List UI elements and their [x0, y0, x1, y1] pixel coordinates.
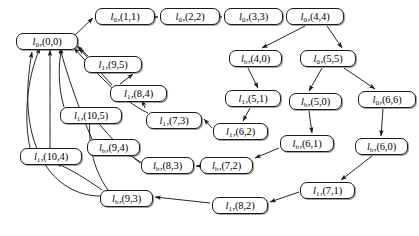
- node-coordinate: (0,0): [42, 36, 62, 47]
- graph-node-61[interactable]: lb,(6,1): [280, 135, 334, 152]
- graph-node-00[interactable]: l0,(0,0): [16, 33, 78, 50]
- graph-node-51[interactable]: l1,(5,1): [225, 90, 281, 107]
- edge-n50-to-n61: [309, 111, 312, 133]
- node-coordinate: (8,4): [133, 88, 153, 99]
- graph-node-33[interactable]: l0,(3,3): [224, 8, 283, 25]
- edge-n55-to-n50: [309, 68, 322, 91]
- edge-n40-to-n51: [248, 68, 258, 88]
- edge-n105-to-n00: [59, 48, 64, 107]
- graph-node-11[interactable]: l0,(1,1): [95, 8, 155, 25]
- node-coordinate: (1,1): [120, 11, 140, 22]
- edge-n82-to-n93: [155, 197, 210, 203]
- graph-node-94[interactable]: lb,(9,4): [87, 139, 140, 156]
- graph-node-93[interactable]: lb,(9,3): [100, 190, 153, 207]
- graph-node-84[interactable]: l1,(8,4): [110, 85, 167, 102]
- edge-n60-to-n71: [341, 156, 372, 180]
- graph-node-71[interactable]: l1,(7,1): [300, 182, 355, 199]
- node-coordinate: (6,2): [235, 126, 255, 137]
- graph-node-50[interactable]: lb,(5,0): [289, 93, 342, 110]
- graph-node-55[interactable]: l0,(5,5): [300, 50, 356, 67]
- node-coordinate: (9,4): [108, 142, 128, 153]
- node-coordinate: (4,0): [250, 53, 270, 64]
- edge-n44-to-n55: [327, 26, 342, 48]
- edge-n84-to-n95: [120, 74, 133, 84]
- node-coordinate: (7,2): [221, 160, 241, 171]
- state-transition-graph-figure: l0,(0,0)l0,(1,1)l0,(2,2)l0,(3,3)l0,(4,4)…: [0, 0, 419, 236]
- node-coordinate: (5,0): [310, 96, 330, 107]
- graph-node-66[interactable]: l0,(6,6): [358, 91, 416, 108]
- edge-n55-to-n66: [344, 68, 375, 89]
- graph-node-60[interactable]: lb,(6,0): [355, 138, 408, 155]
- graph-node-22[interactable]: l0,(2,2): [160, 8, 220, 25]
- node-coordinate: (10,5): [83, 110, 108, 121]
- node-coordinate: (8,3): [162, 160, 182, 171]
- edge-n62-to-n73: [204, 119, 212, 128]
- edge-n71-to-n82: [270, 192, 299, 202]
- node-coordinate: (9,5): [108, 59, 128, 70]
- edge-n104-to-n00: [27, 48, 40, 148]
- edge-n44-to-n40: [262, 26, 305, 48]
- graph-node-105[interactable]: l1,(10,5): [60, 107, 122, 124]
- node-coordinate: (2,2): [185, 11, 205, 22]
- graph-node-104[interactable]: l1,(10,4): [20, 148, 82, 165]
- node-coordinate: (5,5): [323, 53, 343, 64]
- graph-node-62[interactable]: l1,(6,2): [213, 123, 268, 140]
- graph-node-44[interactable]: l0,(4,4): [286, 8, 344, 25]
- graph-node-95[interactable]: l1,(9,5): [84, 56, 142, 73]
- edge-n61-to-n72: [255, 148, 279, 158]
- node-coordinate: (5,1): [248, 93, 268, 104]
- edge-n95-to-n00: [77, 46, 88, 56]
- node-coordinate: (6,0): [376, 141, 396, 152]
- edge-n00-to-n11: [74, 18, 93, 36]
- edge-n93-to-n104: [56, 163, 102, 190]
- node-coordinate: (6,6): [382, 94, 402, 105]
- edge-n66-to-n60: [381, 109, 383, 136]
- node-coordinate: (10,4): [43, 151, 68, 162]
- graph-node-83[interactable]: lb,(8,3): [141, 157, 194, 174]
- node-coordinate: (6,1): [302, 138, 322, 149]
- node-coordinate: (7,3): [169, 115, 189, 126]
- node-coordinate: (8,2): [235, 200, 255, 211]
- node-coordinate: (7,1): [322, 185, 342, 196]
- node-coordinate: (4,4): [310, 11, 330, 22]
- node-coordinate: (3,3): [248, 11, 268, 22]
- graph-node-82[interactable]: l1,(8,2): [212, 197, 268, 214]
- graph-node-40[interactable]: lb,(4,0): [229, 50, 282, 67]
- edge-n51-to-n62: [243, 108, 250, 121]
- graph-node-73[interactable]: l1,(7,3): [146, 112, 202, 129]
- node-coordinate: (9,3): [121, 193, 141, 204]
- graph-node-72[interactable]: lb,(7,2): [200, 157, 253, 174]
